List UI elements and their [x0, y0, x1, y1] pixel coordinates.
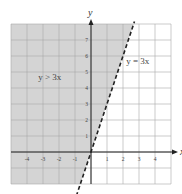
y-axis-arrow-icon: [89, 19, 94, 25]
x-tick-label: -1: [73, 156, 78, 162]
x-tick-label: 3: [138, 156, 141, 162]
y-tick-label: 6: [85, 53, 88, 59]
x-tick-label: 4: [154, 156, 157, 162]
y-tick-label: 2: [85, 117, 88, 123]
x-tick-label: 2: [122, 156, 125, 162]
y-tick-label: 7: [85, 37, 88, 43]
x-axis-label: x: [179, 146, 182, 157]
x-tick-label: -3: [41, 156, 46, 162]
y-tick-label: 5: [85, 69, 88, 75]
x-tick-label: -2: [57, 156, 62, 162]
y-tick-label: 3: [85, 101, 88, 107]
line-label: y = 3x: [126, 56, 150, 66]
x-axis-arrow-icon: [172, 150, 178, 155]
y-tick-label: 4: [85, 85, 88, 91]
region-label: y > 3x: [38, 72, 62, 82]
x-tick-label: -4: [25, 156, 30, 162]
y-axis-label: y: [87, 7, 93, 18]
y-tick-label: 1: [85, 133, 88, 139]
x-tick-label: 1: [106, 156, 109, 162]
inequality-graph: xy -4-3-2-112341234567 y > 3xy = 3x: [0, 0, 182, 194]
